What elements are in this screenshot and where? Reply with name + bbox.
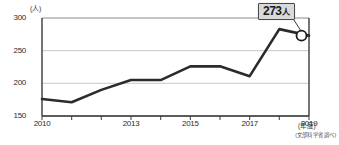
x-tick-label-2013: 2013 bbox=[116, 119, 146, 128]
source-attribution-note: (文部科学省調べ) bbox=[295, 131, 336, 139]
y-tick-label-200: 200 bbox=[2, 78, 26, 87]
y-axis-unit-label: (人) bbox=[30, 3, 41, 13]
line-chart: (人) 300 250 200 bbox=[0, 0, 339, 145]
axis-lines bbox=[42, 18, 309, 116]
data-point-marker-2019 bbox=[297, 31, 307, 41]
value-callout-badge: 273 人 bbox=[258, 3, 295, 20]
y-tick-label-300: 300 bbox=[2, 13, 26, 22]
y-tick-label-150: 150 bbox=[2, 111, 26, 120]
data-line-series bbox=[42, 29, 309, 102]
x-axis-unit-label: (年度) bbox=[298, 120, 316, 130]
gridlines bbox=[42, 18, 309, 116]
x-tick-label-2017: 2017 bbox=[235, 119, 265, 128]
y-tick-label-250: 250 bbox=[2, 46, 26, 55]
callout-value-row: 273 人 bbox=[263, 5, 290, 17]
x-tick-label-2015: 2015 bbox=[175, 119, 205, 128]
x-tick-label-2010: 2010 bbox=[27, 119, 57, 128]
callout-value-number: 273 bbox=[263, 5, 282, 17]
callout-value-unit: 人 bbox=[282, 9, 290, 17]
